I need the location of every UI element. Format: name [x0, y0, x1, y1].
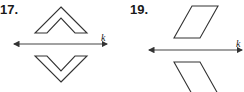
figures: [0, 0, 244, 92]
reflection-diagram: 17. k 19. k: [0, 0, 244, 92]
chevron-up-shape: [35, 7, 87, 33]
parallelogram-lower-shape: [174, 62, 218, 92]
chevron-down-shape: [35, 56, 87, 82]
parallelogram-upper-shape: [174, 6, 218, 38]
problem-19-figure: [149, 6, 242, 92]
problem-17-figure: [14, 7, 107, 82]
